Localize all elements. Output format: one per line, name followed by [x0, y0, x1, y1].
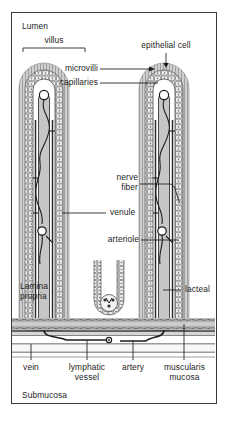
muscularis-mucosae-band [12, 319, 215, 336]
label-capillaries: capillaries [38, 78, 98, 88]
label-lymphatic-vessel-line1: lymphatic [62, 363, 112, 372]
crypt-center [94, 260, 124, 315]
label-lumen: Lumen [22, 22, 48, 32]
label-lymphatic-vessel-line2: vessel [62, 373, 112, 382]
label-arteriole: arteriole [90, 235, 139, 245]
villus-diagram: Lumen villus epithelial cell microvilli … [0, 0, 229, 425]
label-venule: venule [110, 208, 135, 218]
label-epithelial-cell: epithelial cell [128, 41, 204, 51]
label-muscularis-mucosa-line2: mucosa [156, 373, 213, 382]
label-lamina-propria-line2: propria [20, 292, 47, 301]
label-submucosa: Submucosa [22, 391, 67, 401]
label-artery: artery [113, 363, 153, 373]
label-villus: villus [24, 36, 84, 46]
label-nerve-fiber-line2: fiber [92, 183, 138, 192]
label-muscularis-mucosa-line1: muscularis [156, 363, 213, 372]
label-nerve-fiber-line1: nerve [92, 173, 138, 182]
label-microvilli: microvilli [38, 64, 98, 74]
label-lamina-propria-line1: Lamina [20, 282, 48, 291]
villus-bracket [23, 48, 85, 52]
label-vein: vein [12, 363, 50, 373]
label-lacteal: lacteal [185, 285, 210, 295]
